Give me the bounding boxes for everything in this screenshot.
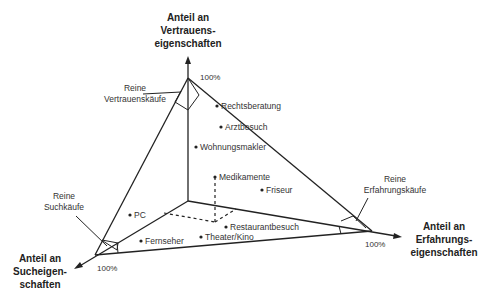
svg-text:schaften: schaften (19, 279, 60, 290)
axis-label-trust: Anteil an Vertrauens- eigenschaften (154, 12, 221, 49)
point-marker-icon (224, 225, 227, 228)
svg-text:Erfahrungskäufe: Erfahrungskäufe (364, 185, 427, 195)
point-marker-icon (194, 145, 197, 148)
arrow-head-icon (74, 262, 83, 269)
data-point: Fernseher (139, 236, 184, 246)
data-point: Arztbesuch (219, 122, 267, 132)
point-marker-icon (139, 239, 142, 242)
point-label: PC (134, 210, 146, 220)
svg-text:Reine: Reine (384, 174, 406, 184)
projection-lines (164, 178, 236, 222)
data-point: PC (128, 210, 145, 220)
axis-label-search: Anteil an Sucheigen- schaften (13, 253, 67, 290)
svg-text:eigenschaften: eigenschaften (154, 38, 221, 49)
point-marker-icon (199, 235, 202, 238)
svg-text:Sucheigen-: Sucheigen- (13, 266, 67, 277)
svg-text:Reine: Reine (124, 83, 146, 93)
data-point: Restaurantbesuch (224, 222, 299, 232)
triangle-diagram: Anteil an Vertrauens- eigenschaften 100%… (0, 0, 484, 299)
point-label: Wohnungsmakler (200, 142, 266, 152)
svg-text:Anteil an: Anteil an (167, 12, 209, 23)
point-marker-icon (219, 125, 222, 128)
svg-text:Suchkäufe: Suchkäufe (44, 202, 84, 212)
svg-text:Anteil an: Anteil an (19, 253, 61, 264)
corner-label-search: Reine Suchkäufe (44, 191, 84, 212)
point-label: Rechtsberatung (221, 101, 281, 111)
point-marker-icon (215, 104, 218, 107)
svg-text:Anteil an: Anteil an (423, 221, 465, 232)
data-points: RechtsberatungArztbesuchWohnungsmaklerMe… (128, 101, 299, 246)
point-label: Fernseher (145, 236, 184, 246)
leader-line (76, 216, 107, 246)
pct-label-right: 100% (365, 240, 385, 249)
leader-line (356, 198, 368, 221)
point-label: Restaurantbesuch (230, 222, 299, 232)
data-point: Friseur (260, 185, 292, 195)
data-point: Wohnungsmakler (194, 142, 266, 152)
pct-label-left: 100% (97, 264, 117, 273)
point-label: Medikamente (219, 172, 270, 182)
data-point: Theater/Kino (199, 232, 254, 242)
point-label: Theater/Kino (205, 232, 254, 242)
point-label: Arztbesuch (225, 122, 268, 132)
point-marker-icon (213, 175, 216, 178)
data-point: Rechtsberatung (215, 101, 281, 111)
svg-text:Reine: Reine (53, 191, 75, 201)
arrow-head-icon (393, 233, 402, 239)
point-label: Friseur (266, 185, 293, 195)
data-point: Medikamente (213, 172, 270, 182)
point-marker-icon (260, 188, 263, 191)
svg-text:Erfahrungs-: Erfahrungs- (416, 234, 473, 245)
point-marker-icon (128, 213, 131, 216)
axis-label-experience: Anteil an Erfahrungs- eigenschaften (410, 221, 477, 258)
svg-text:eigenschaften: eigenschaften (410, 247, 477, 258)
svg-text:Vertrauenskäufe: Vertrauenskäufe (104, 94, 166, 104)
svg-text:Vertrauens-: Vertrauens- (160, 25, 215, 36)
arrow-head-icon (185, 56, 191, 64)
corner-label-experience: Reine Erfahrungskäufe (364, 174, 427, 195)
corner-box-top (175, 78, 199, 110)
pct-label-top: 100% (200, 73, 220, 82)
